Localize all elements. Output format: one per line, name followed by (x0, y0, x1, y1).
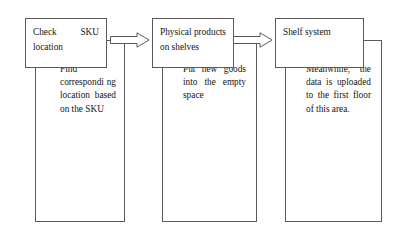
process-box-check-sku-location[interactable]: Check SKU location (25, 18, 107, 68)
detail-box-label: Meanwhile, the data is uploaded to the f… (306, 63, 371, 116)
process-box-label: Shelf system (283, 27, 331, 37)
block-arrow-right-icon-1 (110, 32, 150, 48)
detail-box-label: Find correspondi ng location based on th… (60, 63, 116, 116)
process-box-label: Physical products on shelves (160, 27, 226, 52)
detail-box-label: Put new goods into the empty space (183, 63, 246, 103)
flowchart-canvas: Check SKU location Find correspondi ng l… (0, 0, 401, 242)
block-arrow-right-icon-2 (233, 32, 273, 48)
process-box-physical-products-on-shelves[interactable]: Physical products on shelves (152, 18, 234, 68)
process-box-shelf-system[interactable]: Shelf system (275, 18, 364, 68)
process-box-label: Check SKU location (33, 27, 99, 52)
